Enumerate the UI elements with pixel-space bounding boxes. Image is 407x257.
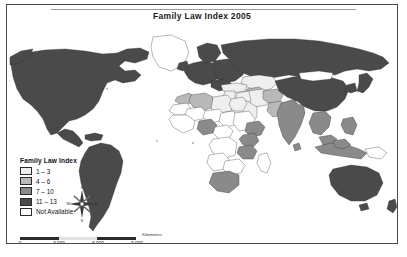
page-title: Family Law Index 2005 [7, 11, 397, 21]
scale-segment-2 [59, 237, 98, 240]
island-dot [156, 140, 157, 141]
scale-tick-2: 6,000 [92, 241, 104, 244]
region-mongolia [299, 71, 333, 81]
scale-tick-0: 0 [19, 241, 22, 244]
compass-south-label: S [81, 219, 84, 222]
island-dot [106, 88, 107, 89]
map-frame: Family Law Index 2005 .ld { fill:#efefef… [6, 4, 398, 244]
legend-swatch-7-10 [20, 187, 32, 195]
legend-label-1-3: 1 – 3 [36, 168, 50, 175]
compass-rose-svg: N S W E [65, 186, 99, 222]
island-dot [192, 142, 193, 143]
legend-label-4-6: 4 – 6 [36, 178, 50, 185]
scale-bar: Kilometers 0 3,000 6,000 9,000 [20, 237, 148, 244]
scale-segment-1 [20, 237, 59, 240]
title-divider [51, 9, 356, 10]
legend-label-11-13: 11 – 13 [36, 198, 57, 205]
legend-item-1-3: 1 – 3 [20, 167, 106, 175]
legend-swatch-not-available [20, 208, 32, 216]
scale-bar-track [20, 237, 136, 240]
legend-label-7-10: 7 – 10 [36, 188, 54, 195]
legend-swatch-11-13 [20, 198, 32, 206]
scale-bar-ticks: 0 3,000 6,000 9,000 [20, 241, 148, 244]
legend-swatch-1-3 [20, 167, 32, 175]
legend-title: Family Law Index [20, 157, 106, 164]
compass-rose-icon: N S W E [65, 186, 99, 222]
scale-bar-units: Kilometers [142, 232, 162, 237]
scale-segment-3 [97, 237, 136, 240]
scale-tick-3: 9,000 [131, 241, 143, 244]
legend-swatch-4-6 [20, 177, 32, 185]
scale-tick-1: 3,000 [53, 241, 65, 244]
compass-west-label: W [67, 202, 71, 206]
legend-item-4-6: 4 – 6 [20, 177, 106, 185]
compass-north-label: N [81, 186, 84, 190]
map-figure: Family Law Index 2005 .ld { fill:#efefef… [0, 0, 407, 257]
compass-east-label: E [95, 202, 98, 206]
